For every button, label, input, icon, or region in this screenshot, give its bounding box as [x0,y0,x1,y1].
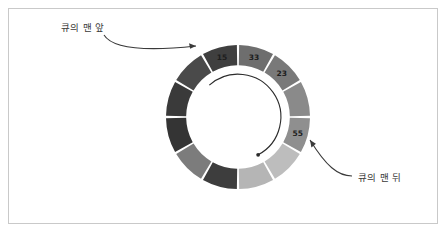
figure-container: 큐의 맨 앞 큐의 맨 뒤 33235515 [0,0,448,234]
donut-slice-value: 33 [249,53,259,62]
donut-slice-value: 15 [217,53,227,62]
donut-slice [265,144,300,179]
donut-slice-value: 55 [293,129,303,138]
donut-chart-canvas [0,0,448,234]
direction-arrow-head [256,153,260,157]
back-callout-arrow-icon [310,140,352,176]
circular-direction-arrow-icon [209,74,281,157]
donut-slice-value: 23 [277,69,287,78]
donut-slice [176,144,211,179]
donut-slice [176,55,211,90]
front-of-queue-label: 큐의 맨 앞 [61,20,104,34]
front-callout-arrow-icon [104,35,196,49]
direction-arc [209,74,281,155]
back-of-queue-label: 큐의 맨 뒤 [358,170,401,184]
donut-slices [166,45,310,189]
